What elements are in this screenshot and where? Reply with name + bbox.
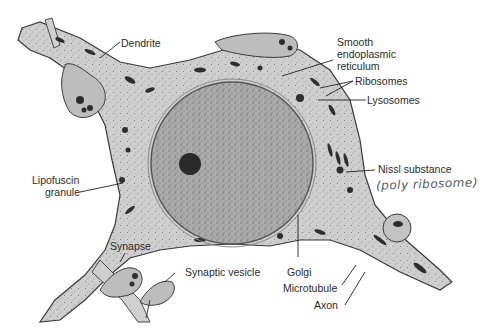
label-lipofuscin-line1: Lipofuscin: [32, 174, 79, 186]
nucleolus: [179, 153, 201, 175]
label-lysosomes: Lysosomes: [367, 94, 420, 106]
label-microtubule: Microtubule: [283, 282, 337, 294]
neuron-diagram: Dendrite Smooth endoplasmic reticulum Ri…: [0, 0, 490, 330]
label-ser-line2: endoplasmic: [337, 48, 396, 60]
label-synaptic-vesicle: Synaptic vesicle: [185, 266, 260, 278]
label-dendrite: Dendrite: [121, 37, 161, 49]
label-golgi: Golgi: [287, 266, 312, 278]
label-axon: Axon: [314, 299, 338, 311]
label-nissl-substance: Nissl substance: [378, 163, 452, 175]
axon-side-terminal: [383, 214, 411, 242]
label-lipofuscin-line2: granule: [45, 186, 80, 198]
label-ribosomes: Ribosomes: [355, 75, 408, 87]
label-synapse: Synapse: [110, 240, 151, 252]
label-ser-line3: reticulum: [337, 60, 380, 72]
label-ser-line1: Smooth: [337, 36, 373, 48]
